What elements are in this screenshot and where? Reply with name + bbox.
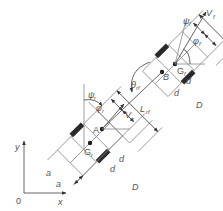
front-d-label-2: d xyxy=(174,88,180,98)
rear-slip-sub: r xyxy=(94,95,97,101)
front-heading-sub: f xyxy=(199,41,202,47)
rear-center-label: G xyxy=(84,147,91,157)
front-D-label: D xyxy=(196,100,203,110)
rear-center-point xyxy=(88,141,92,145)
rear-left-track-icon xyxy=(69,122,84,137)
link-length-sub: rf xyxy=(146,109,151,115)
rear-a-dimension xyxy=(74,176,82,184)
x-axis-label: x xyxy=(57,197,63,207)
front-heading-arc xyxy=(183,49,190,64)
origin-label: 0 xyxy=(16,196,21,206)
front-velocity-vector xyxy=(175,12,206,64)
rear-heading-sub: r xyxy=(102,108,105,114)
front-velocity-label: V xyxy=(206,8,213,18)
link-length-label: L xyxy=(140,104,145,114)
rear-velocity-sub: r xyxy=(132,116,135,122)
rear-velocity-vector xyxy=(102,104,124,129)
rear-a-label-1: a xyxy=(46,168,51,178)
rear-D-label: D xyxy=(132,182,139,192)
front-module xyxy=(140,8,223,105)
front-center-label: G xyxy=(177,66,184,76)
point-A-label: A xyxy=(93,125,99,135)
rear-d-label-1: d xyxy=(119,154,125,164)
articulated-vehicle-diagram: 0 x y xyxy=(0,0,223,211)
rear-velocity-label: V xyxy=(125,110,132,120)
rear-d-label-2: d xyxy=(110,164,116,174)
front-D-dimension xyxy=(199,15,223,49)
front-d-dimension xyxy=(205,34,216,45)
rear-a-label-2: a xyxy=(56,179,61,189)
front-velocity-sub: f xyxy=(213,14,216,20)
point-B-label: B xyxy=(163,72,169,82)
rear-center-sub: r xyxy=(91,152,94,158)
rear-right-track-icon xyxy=(96,149,111,164)
y-axis-label: y xyxy=(14,142,20,152)
articulation-sub: rf xyxy=(136,85,141,91)
front-left-track-icon xyxy=(154,43,169,58)
